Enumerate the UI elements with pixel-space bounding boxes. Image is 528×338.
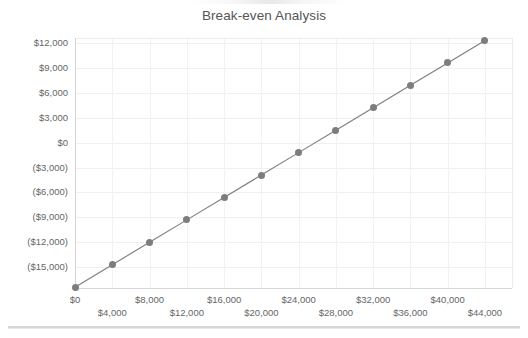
data-point-marker [221,194,228,201]
y-axis-tick-label: $12,000 [4,38,68,48]
plot-border-top [75,38,512,39]
gridline-vertical [150,38,151,288]
x-axis-tick-label: $28,000 [319,307,353,318]
chart-title: Break-even Analysis [0,8,528,23]
data-point-marker [370,104,377,111]
y-axis-tick-label: ($3,000) [4,163,68,173]
gridline-vertical [410,38,411,288]
gridline-vertical [485,38,486,288]
x-axis-line [75,288,512,289]
x-axis-tick-label: $40,000 [431,294,465,305]
y-axis-tick-label: $6,000 [4,88,68,98]
gridline-horizontal [75,43,512,44]
x-axis-tick-label: $4,000 [98,307,127,318]
clipped-content-artifact [190,0,350,4]
gridline-vertical [373,38,374,288]
gridline-horizontal [75,192,512,193]
gridline-vertical [299,38,300,288]
data-point-marker [109,261,116,268]
gridline-vertical [187,38,188,288]
y-axis-line [75,38,76,288]
y-axis-tick-label: $3,000 [4,113,68,123]
x-axis-tick-label: $16,000 [207,294,241,305]
data-point-marker [258,172,265,179]
chart-container: Break-even Analysis $12,000$9,000$6,000$… [0,0,528,338]
gridline-vertical [448,38,449,288]
gridline-horizontal [75,93,512,94]
gridline-horizontal [75,168,512,169]
y-axis-tick-label: $0 [4,138,68,148]
y-axis-tick-label: ($9,000) [4,212,68,222]
plot-area [75,38,512,288]
data-point-marker [146,239,153,246]
gridline-horizontal [75,217,512,218]
gridline-vertical [261,38,262,288]
y-axis-tick-label: ($6,000) [4,187,68,197]
y-axis-tick-label: ($12,000) [4,237,68,247]
gridline-horizontal [75,242,512,243]
data-point-marker [72,284,79,291]
y-axis-tick-label: ($15,000) [4,262,68,272]
gridline-vertical [224,38,225,288]
data-point-marker [407,82,414,89]
footer-divider-shadow [8,328,520,329]
gridline-vertical [336,38,337,288]
x-axis-tick-label: $12,000 [170,307,204,318]
gridline-horizontal [75,143,512,144]
x-axis-tick-label: $0 [70,294,81,305]
plot-border-right [512,38,513,288]
x-axis-tick-label: $44,000 [468,307,502,318]
x-axis-tick-label: $24,000 [281,294,315,305]
gridline-horizontal [75,267,512,268]
gridline-vertical [112,38,113,288]
x-axis-tick-label: $8,000 [135,294,164,305]
gridline-horizontal [75,118,512,119]
gridline-horizontal [75,68,512,69]
x-axis-tick-label: $36,000 [393,307,427,318]
y-axis-tick-label: $9,000 [4,63,68,73]
x-axis-tick-label: $20,000 [244,307,278,318]
x-axis-tick-label: $32,000 [356,294,390,305]
